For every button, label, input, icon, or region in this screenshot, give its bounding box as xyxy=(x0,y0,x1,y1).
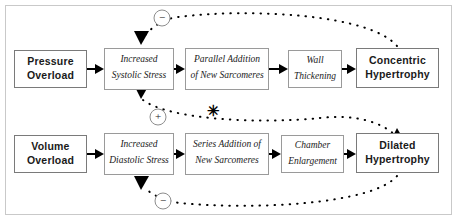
hypertrophy-pathway-diagram: Pressure Overload Increased Systolic Str… xyxy=(0,0,458,223)
node-label-line2: Systolic Stress xyxy=(112,70,167,80)
node-label-line2: Overload xyxy=(27,154,74,166)
feedback-curve-dilated-to-diastolic xyxy=(145,176,397,206)
node-label-line2: Hypertrophy xyxy=(365,68,430,80)
node-label-line1: Wall xyxy=(306,55,323,65)
node-label-line2: New Sarcomeres xyxy=(194,155,259,165)
node-concentric-hypertrophy[interactable]: Concentric Hypertrophy xyxy=(357,49,439,88)
node-label-line1: Concentric xyxy=(369,54,426,66)
node-increased-systolic-stress[interactable]: Increased Systolic Stress xyxy=(105,49,174,90)
feedback-curve-concentric-to-systolic xyxy=(143,13,397,46)
solid-arrow-series-to-chamber xyxy=(269,149,281,159)
solid-arrow-parallel-to-wall xyxy=(269,64,288,74)
node-dilated-hypertrophy[interactable]: Dilated Hypertrophy xyxy=(357,134,439,173)
node-wall-thickening[interactable]: Wall Thickening xyxy=(289,51,342,88)
sign-badge-minus-bottom: − xyxy=(155,193,171,209)
node-label-line1: Volume xyxy=(31,140,69,152)
node-series-addition[interactable]: Series Addition of New Sarcomeres xyxy=(186,134,269,175)
node-parallel-addition[interactable]: Parallel Addition of New Sarcomeres xyxy=(186,49,269,90)
node-volume-overload[interactable]: Volume Overload xyxy=(15,136,87,173)
node-increased-diastolic-stress[interactable]: Increased Diastolic Stress xyxy=(105,134,174,175)
solid-arrow-systolic-to-parallel xyxy=(174,64,185,74)
node-label-line2: Diastolic Stress xyxy=(108,155,169,165)
node-label-line1: Increased xyxy=(119,139,157,149)
diagram-canvas: Pressure Overload Increased Systolic Str… xyxy=(0,0,458,223)
sign-badge-minus-top: − xyxy=(154,10,170,26)
solid-arrow-volume-to-diastolic xyxy=(87,149,104,159)
solid-arrow-pressure-to-systolic xyxy=(87,64,104,74)
node-label-line2: Hypertrophy xyxy=(365,153,430,165)
node-label-line1: Dilated xyxy=(379,139,415,151)
node-label-line2: Enlargement xyxy=(287,156,337,166)
sign-badge-plus-middle: + xyxy=(150,109,166,125)
arrowhead-below-diastolic xyxy=(134,176,149,190)
node-label-line1: Parallel Addition xyxy=(193,54,260,64)
solid-arrow-wall-to-concentric xyxy=(342,64,356,74)
minus-sign-glyph: − xyxy=(160,194,166,206)
arrowhead-into-systolic-top xyxy=(134,31,149,45)
solid-arrow-chamber-to-dilated xyxy=(344,149,356,159)
node-label-line1: Increased xyxy=(119,54,157,64)
asterisk-marker-icon: ✳ xyxy=(207,103,220,119)
node-label-line2: of New Sarcomeres xyxy=(190,70,263,80)
node-pressure-overload[interactable]: Pressure Overload xyxy=(15,51,87,88)
node-chamber-enlargement[interactable]: Chamber Enlargement xyxy=(282,136,344,173)
solid-arrow-diastolic-to-series xyxy=(174,149,185,159)
node-label-line1: Chamber xyxy=(295,140,331,150)
plus-sign-glyph: + xyxy=(155,110,161,122)
feedback-curve-systolic-to-dilated xyxy=(143,100,396,136)
node-label-line2: Overload xyxy=(27,69,74,81)
node-label-line1: Pressure xyxy=(27,55,74,67)
node-label-line2: Thickening xyxy=(294,71,336,81)
node-label-line1: Series Addition of xyxy=(193,139,262,149)
minus-sign-glyph: − xyxy=(159,11,165,23)
